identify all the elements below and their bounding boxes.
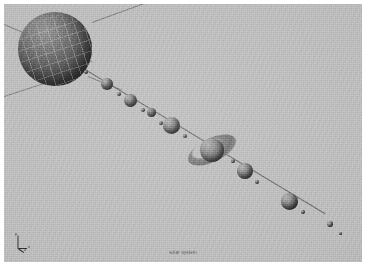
moon-sphere[interactable]: [339, 232, 342, 235]
axis-triad-gizmo: y x z: [12, 232, 34, 252]
moon-sphere[interactable]: [117, 92, 121, 96]
render-caption: solar system: [4, 250, 362, 255]
moon-sphere[interactable]: [231, 159, 235, 163]
moon-sphere[interactable]: [255, 180, 259, 184]
planet-sphere-2[interactable]: [124, 94, 137, 107]
ringed-planet-group[interactable]: [186, 131, 238, 169]
planet-sphere-5[interactable]: [237, 163, 253, 179]
moon-sphere[interactable]: [301, 210, 305, 214]
planet-sphere-1[interactable]: [101, 78, 113, 90]
screenshot-root: y x z solar system: [0, 0, 366, 266]
axis-x-label: x: [28, 245, 30, 249]
grid-line: [92, 4, 190, 23]
axis-y-line: [18, 236, 19, 249]
sun-wireframe-mesh: [18, 12, 92, 86]
moon-sphere[interactable]: [84, 70, 88, 74]
planet-sphere-6[interactable]: [281, 193, 298, 210]
moon-sphere[interactable]: [141, 108, 145, 112]
planet-sphere-3[interactable]: [147, 108, 156, 117]
planet-sphere-7[interactable]: [327, 221, 333, 227]
saturn-sphere[interactable]: [200, 138, 224, 162]
planet-sphere-4[interactable]: [163, 117, 180, 134]
sun-sphere[interactable]: [18, 12, 92, 86]
render-viewport[interactable]: y x z solar system: [4, 4, 362, 262]
axis-y-label: y: [15, 232, 17, 236]
